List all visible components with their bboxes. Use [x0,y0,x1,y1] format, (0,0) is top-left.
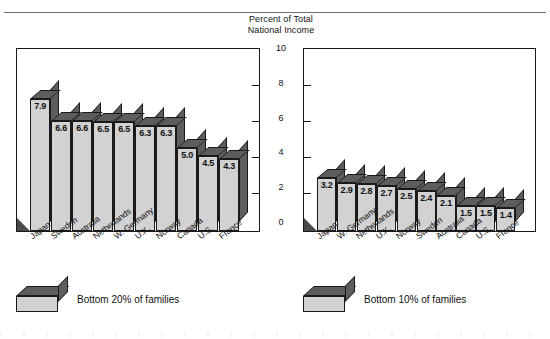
axis-title: Percent of Total National Income [222,14,340,36]
chart-panel-bottom-20: 7.96.66.66.56.56.36.35.04.54.3 [16,48,260,232]
axis-tick-mark [304,85,311,86]
legend-bottom-20: Bottom 20% of families [16,286,179,312]
bar-value-label: 7.9 [30,101,50,111]
axis-tick-mark [252,193,259,194]
bar: 6.3 [156,126,176,231]
axis-tick-mark [252,121,259,122]
bar-value-label: 4.5 [198,158,218,168]
y-tick-label-6: 6 [268,113,294,123]
axis-tick-mark [252,85,259,86]
bar-value-label: 2.1 [436,198,455,208]
legend-bottom-10: Bottom 10% of families [303,286,466,312]
bar-value-label: 4.3 [219,161,239,171]
axis-tick-mark [304,121,311,122]
bar-value-label: 2.9 [337,185,356,195]
legend-swatch-icon [16,286,68,312]
axis-title-line-2: National Income [222,25,340,36]
legend-swatch-icon [303,286,355,312]
y-axis-tick-labels: 1086420 [268,44,294,230]
bar-value-label: 2.8 [357,186,376,196]
bar: 6.6 [51,121,71,231]
bar-value-label: 6.5 [93,124,113,134]
bar-value-label: 6.5 [114,124,134,134]
bar: 6.6 [72,121,92,231]
bar-value-label: 2.7 [377,188,396,198]
y-tick-label-4: 4 [268,147,294,157]
legend-label: Bottom 10% of families [364,294,466,305]
axis-tick-mark [304,193,311,194]
bar-value-label: 6.3 [156,128,176,138]
bar-value-label: 6.3 [135,128,155,138]
bar-value-label: 6.6 [51,123,71,133]
bar-front-face [156,126,176,231]
y-tick-label-2: 2 [268,182,294,192]
bar-value-label: 2.5 [397,191,416,201]
top-divider-rule [4,12,546,13]
bar-value-label: 3.2 [317,180,336,190]
legend-label: Bottom 20% of families [77,294,179,305]
bar-value-label: 1.5 [476,208,495,218]
y-tick-label-8: 8 [268,78,294,88]
bar-front-face [72,121,92,231]
scan-artifact [0,331,550,337]
bar-value-label: 5.0 [177,150,197,160]
axis-tick-mark [252,157,259,158]
bar-front-face [51,121,71,231]
bar-value-label: 2.4 [417,193,436,203]
bar: 7.9 [30,99,50,231]
axis-tick-mark [304,157,311,158]
y-tick-label-10: 10 [268,43,294,53]
bar-value-label: 6.6 [72,123,92,133]
axis-title-line-1: Percent of Total [222,14,340,25]
chart-panel-bottom-10: 3.22.92.82.72.52.42.11.51.51.4 [303,48,536,232]
y-tick-label-0: 0 [268,217,294,227]
bar-front-face [30,99,50,231]
